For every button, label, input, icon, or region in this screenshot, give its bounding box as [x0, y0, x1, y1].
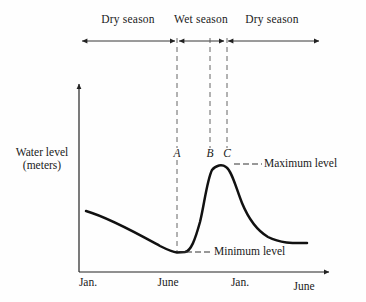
- y-axis-title-line1: Water level: [16, 146, 68, 158]
- point-label-a: A: [173, 147, 180, 160]
- season-label-dry-right: Dry season: [245, 13, 298, 26]
- figure-container: Dry season Wet season Dry season Water l…: [0, 0, 366, 302]
- point-label-c: C: [223, 147, 231, 160]
- season-label-dry-left: Dry season: [101, 13, 154, 26]
- y-axis-title-line2: (meters): [16, 159, 68, 172]
- season-label-wet: Wet season: [174, 13, 228, 26]
- y-axis-title: Water level (meters): [16, 146, 68, 171]
- water-level-curve: [86, 165, 307, 252]
- x-tick-label-june-2: June: [293, 280, 314, 293]
- annotation-leaders: [180, 164, 262, 252]
- x-tick-label-june-1: June: [157, 276, 178, 289]
- reference-lines: [177, 38, 227, 252]
- annotation-maximum-level: Maximum level: [264, 157, 337, 170]
- annotation-minimum-level: Minimum level: [214, 245, 285, 258]
- x-tick-label-jan-2: Jan.: [231, 276, 249, 289]
- x-tick-label-jan-1: Jan.: [79, 276, 97, 289]
- point-label-b: B: [206, 147, 213, 160]
